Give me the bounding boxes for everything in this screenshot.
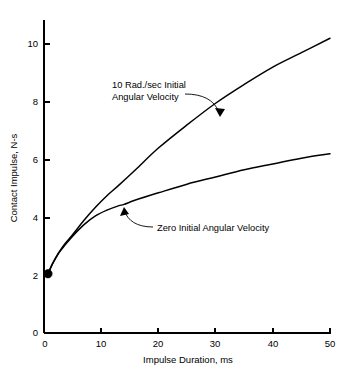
upper-annotation-leader — [185, 94, 219, 112]
y-axis-ticks — [44, 44, 50, 276]
y-tick-label-4: 4 — [33, 212, 38, 223]
start-point-marker — [44, 270, 52, 278]
upper-annotation-arrowhead — [215, 108, 225, 117]
y-axis-title: Contact Impulse, N-s — [8, 133, 19, 222]
y-tick-label-8: 8 — [33, 96, 38, 107]
chart-canvas: 10 8 6 4 2 0 0 10 20 30 40 50 Impulse Du… — [0, 0, 348, 377]
upper-annotation-line-1: 10 Rad./sec Initial — [112, 80, 186, 90]
y-tick-label-10: 10 — [27, 38, 38, 49]
upper-annotation-line-2: Angular Velocity — [112, 92, 179, 102]
x-tick-label-10: 10 — [96, 338, 107, 349]
x-axis-ticks — [101, 328, 330, 333]
lower-annotation-leader — [125, 212, 153, 227]
x-axis-title: Impulse Duration, ms — [143, 354, 233, 365]
x-tick-label-20: 20 — [153, 338, 164, 349]
x-tick-label-0: 0 — [42, 338, 47, 349]
x-tick-label-30: 30 — [210, 338, 221, 349]
y-tick-label-2: 2 — [33, 270, 38, 281]
lower-annotation-line-1: Zero Initial Angular Velocity — [157, 223, 269, 233]
y-tick-label-6: 6 — [33, 154, 38, 165]
lower-annotation-arrowhead — [120, 207, 129, 216]
x-tick-label-40: 40 — [268, 338, 279, 349]
series-line-10-rad-per-sec — [48, 38, 330, 274]
chart-figure: 10 8 6 4 2 0 0 10 20 30 40 50 Impulse Du… — [0, 0, 348, 377]
y-tick-label-0: 0 — [33, 327, 38, 338]
x-tick-label-50: 50 — [325, 338, 336, 349]
